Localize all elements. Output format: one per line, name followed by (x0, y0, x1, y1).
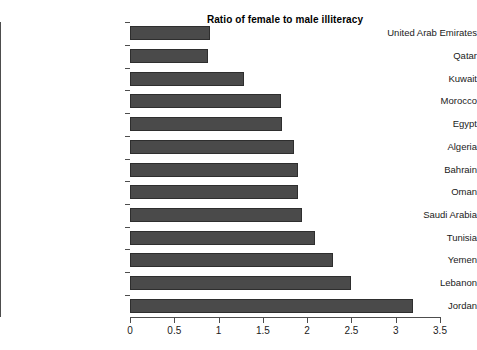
bar-bahrain (130, 163, 298, 177)
x-axis-label: 1.5 (243, 325, 283, 336)
x-axis-label: 2.5 (331, 325, 371, 336)
bar-morocco (130, 94, 281, 108)
bar-rect (130, 163, 298, 177)
y-axis-tick (125, 295, 130, 296)
y-axis-tick (125, 204, 130, 205)
category-label: United Arab Emirates (359, 28, 477, 38)
y-axis-tick (125, 227, 130, 228)
x-axis-label: 2 (287, 325, 327, 336)
y-axis-tick (125, 181, 130, 182)
category-label: Algeria (359, 142, 477, 152)
bar-rect (130, 117, 282, 131)
x-axis-tick (396, 318, 397, 323)
x-axis-tick (174, 318, 175, 323)
x-axis-tick (263, 318, 264, 323)
bar-yemen (130, 253, 333, 267)
bar-qatar (130, 49, 208, 63)
y-axis-tick (125, 136, 130, 137)
bar-united-arab-emirates (130, 26, 210, 40)
y-axis-tick (125, 22, 130, 23)
bar-kuwait (130, 72, 244, 86)
x-axis-tick (307, 318, 308, 323)
x-axis-tick (219, 318, 220, 323)
bar-oman (130, 185, 298, 199)
x-axis-label: 1 (199, 325, 239, 336)
bar-rect (130, 253, 333, 267)
bar-lebanon (130, 276, 351, 290)
category-label: Bahrain (359, 165, 477, 175)
category-label: Tunisia (359, 233, 477, 243)
bar-egypt (130, 117, 282, 131)
category-label: Lebanon (359, 278, 477, 288)
x-axis-line (130, 317, 441, 318)
category-label: Egypt (359, 119, 477, 129)
x-axis-tick (351, 318, 352, 323)
bar-rect (130, 94, 281, 108)
bar-algeria (130, 140, 294, 154)
x-axis-tick (130, 318, 131, 323)
category-label: Qatar (359, 51, 477, 61)
x-axis-label: 0.5 (154, 325, 194, 336)
x-axis-tick (440, 318, 441, 323)
bar-saudi-arabia (130, 208, 302, 222)
bar-rect (130, 208, 302, 222)
bar-rect (130, 26, 210, 40)
bar-chart: Ratio of female to male illiteracy Unite… (0, 0, 477, 350)
bar-rect (130, 276, 351, 290)
x-axis-label: 3 (376, 325, 416, 336)
y-axis-line (0, 22, 1, 317)
bar-rect (130, 140, 294, 154)
category-label: Saudi Arabia (359, 210, 477, 220)
bar-rect (130, 49, 208, 63)
y-axis-tick (125, 249, 130, 250)
bar-rect (130, 231, 315, 245)
category-label: Kuwait (359, 74, 477, 84)
category-label: Jordan (359, 301, 477, 311)
y-axis-tick (125, 113, 130, 114)
chart-title: Ratio of female to male illiteracy (130, 14, 440, 25)
category-label: Oman (359, 187, 477, 197)
bar-rect (130, 72, 244, 86)
bar-rect (130, 185, 298, 199)
y-axis-tick (125, 90, 130, 91)
x-axis-label: 0 (110, 325, 150, 336)
y-axis-tick (125, 159, 130, 160)
y-axis-tick (125, 45, 130, 46)
category-label: Morocco (359, 96, 477, 106)
category-label: Yemen (359, 255, 477, 265)
y-axis-tick (125, 68, 130, 69)
y-axis-tick (125, 272, 130, 273)
x-axis-label: 3.5 (420, 325, 460, 336)
bar-tunisia (130, 231, 315, 245)
